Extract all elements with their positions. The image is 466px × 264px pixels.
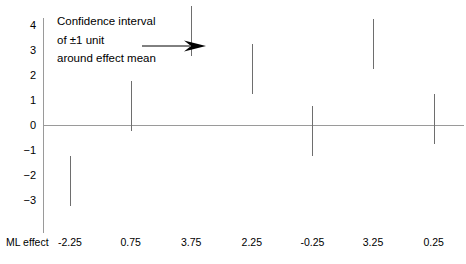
y-tick-label: 0 — [4, 120, 36, 131]
callout-arrow-icon — [142, 38, 206, 50]
x-tick-label: 0.25 — [423, 236, 443, 248]
confidence-interval-bar — [131, 81, 132, 131]
y-axis-tick-labels: 43210−1−2−3 — [0, 0, 36, 264]
x-tick-label: -0.25 — [300, 236, 324, 248]
y-tick-label: −3 — [4, 195, 36, 206]
chart-canvas: 43210−1−2−3 -2.250.753.752.25-0.253.250.… — [0, 0, 466, 264]
y-tick-label: 2 — [4, 70, 36, 81]
y-tick-label: 4 — [4, 20, 36, 31]
x-tick-label: 2.25 — [242, 236, 262, 248]
y-tick-label: 3 — [4, 45, 36, 56]
x-axis-caption: ML effect — [6, 236, 49, 248]
y-tick-label: 1 — [4, 95, 36, 106]
x-tick-label: 3.75 — [181, 236, 201, 248]
confidence-interval-bar — [252, 44, 253, 94]
y-tick-label: −2 — [4, 170, 36, 181]
x-tick-label: 3.25 — [363, 236, 383, 248]
confidence-interval-bar — [70, 156, 71, 206]
callout-line-1: Confidence interval — [57, 12, 156, 31]
confidence-interval-bar — [312, 106, 313, 156]
x-tick-label: 0.75 — [120, 236, 140, 248]
confidence-interval-bar — [373, 19, 374, 69]
zero-reference-line — [44, 125, 464, 126]
x-tick-label: -2.25 — [58, 236, 82, 248]
y-tick-label: −1 — [4, 145, 36, 156]
confidence-interval-bar — [434, 94, 435, 144]
